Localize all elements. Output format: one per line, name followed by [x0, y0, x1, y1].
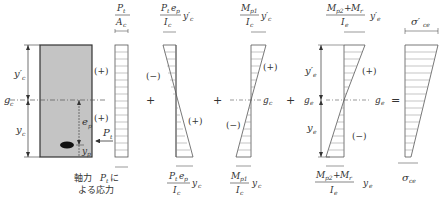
additional-moment-block: Mp2 + Mr Ie y′e y′e ge ye ge (+) (−) Mp2…: [304, 3, 385, 196]
tendon: [60, 142, 74, 149]
svg-text:c: c: [10, 100, 14, 107]
svg-text:(−): (−): [146, 71, 161, 81]
svg-text:c: c: [268, 15, 272, 22]
svg-text:e: e: [369, 182, 373, 189]
label-yc: y: [15, 124, 22, 135]
svg-text:(−): (−): [352, 131, 367, 141]
svg-text:y: y: [306, 122, 313, 133]
svg-text:(+): (+): [362, 66, 377, 76]
svg-text:t: t: [106, 177, 109, 184]
svg-text:c: c: [22, 130, 26, 137]
beam-cross-section: y′ c g c y c e p y p P t: [4, 45, 113, 158]
svg-text:y: y: [251, 178, 258, 188]
svg-text:e: e: [377, 15, 381, 22]
svg-text:p2: p2: [325, 174, 333, 182]
svg-text:t: t: [175, 175, 178, 182]
svg-text:e: e: [310, 99, 314, 106]
svg-text:(−): (−): [226, 120, 241, 130]
svg-text:c: c: [198, 182, 202, 189]
svg-text:c: c: [190, 15, 194, 22]
svg-text:c: c: [22, 74, 26, 81]
svg-text:y′: y′: [369, 11, 377, 21]
svg-text:e: e: [313, 128, 317, 135]
svg-text:c: c: [258, 182, 262, 189]
svg-text:t: t: [167, 7, 170, 14]
svg-text:ce: ce: [423, 21, 430, 28]
label-Pt: P: [102, 127, 110, 138]
svg-text:r: r: [349, 174, 353, 181]
plus-operator-2: +: [213, 94, 222, 107]
svg-text:c: c: [168, 21, 172, 28]
svg-text:よる応力: よる応力: [78, 184, 114, 195]
svg-text:c: c: [240, 189, 244, 196]
svg-text:軸力: 軸力: [74, 172, 92, 183]
svg-text:p: p: [88, 122, 92, 130]
svg-text:c: c: [250, 21, 254, 28]
svg-text:p2: p2: [336, 7, 344, 15]
svg-text:y: y: [191, 178, 198, 188]
svg-text:(+): (+): [188, 116, 203, 126]
svg-text:ce: ce: [409, 177, 416, 184]
svg-text:σ′: σ′: [411, 16, 421, 27]
resultant-stress-block: σ′ce σce: [398, 16, 438, 184]
svg-text:p: p: [176, 7, 180, 15]
self-weight-moment-block: Mp1 Ic y′c gc (+) (−) Mp1 Ic yc: [226, 3, 278, 196]
equals-operator: =: [391, 94, 400, 107]
svg-text:r: r: [360, 7, 364, 14]
plus-operator-1: +: [146, 94, 155, 107]
svg-text:t: t: [110, 133, 113, 140]
svg-text:c: c: [123, 21, 127, 28]
svg-text:p1: p1: [250, 7, 258, 15]
svg-text:c: c: [269, 99, 273, 106]
svg-text:A: A: [115, 17, 123, 27]
plus-operator-3: +: [286, 94, 295, 107]
svg-text:y′: y′: [182, 11, 190, 21]
svg-text:に: に: [110, 173, 119, 183]
svg-text:y′: y′: [260, 11, 268, 21]
svg-text:t: t: [123, 7, 126, 14]
svg-text:p: p: [87, 150, 91, 158]
svg-text:(+): (+): [94, 113, 109, 123]
svg-text:(+): (+): [94, 66, 109, 76]
prestressed-beam-stress-diagram: y′ c g c y c e p y p P t Pt Ac: [0, 0, 446, 199]
svg-text:p: p: [184, 175, 188, 183]
svg-text:e: e: [334, 189, 338, 196]
svg-text:e: e: [345, 21, 349, 28]
svg-text:e: e: [313, 71, 317, 78]
svg-text:c: c: [177, 189, 181, 196]
svg-text:e: e: [381, 99, 385, 106]
svg-text:(+): (+): [263, 62, 278, 72]
svg-text:y: y: [362, 178, 369, 188]
svg-text:p1: p1: [240, 175, 248, 183]
